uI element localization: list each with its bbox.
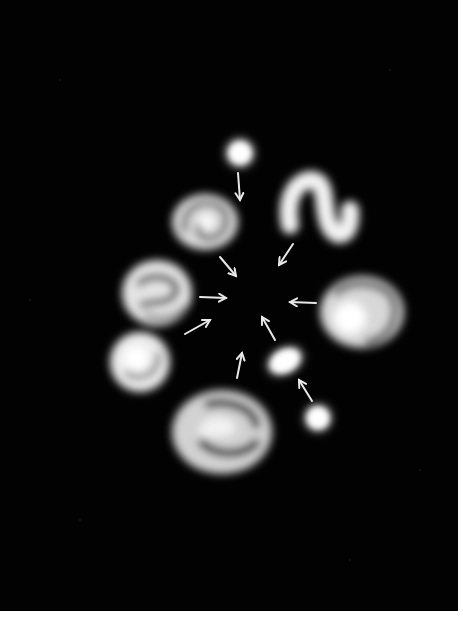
galaxy-spiral-upper-left xyxy=(172,194,238,250)
galaxy-spiral-right xyxy=(320,276,404,348)
arrow-lower-left xyxy=(185,320,210,334)
arrow-upper-right xyxy=(279,244,293,265)
arrow-center-right xyxy=(262,317,275,340)
galaxy-s-shaped-upper-right xyxy=(289,180,350,234)
arrow-upper-left xyxy=(220,257,236,276)
galaxy-scene xyxy=(0,0,458,611)
arrow-left xyxy=(200,297,226,298)
arrow-bottom xyxy=(237,353,242,378)
galaxy-spiral-lower-left xyxy=(110,332,170,392)
arrow-lower-right xyxy=(299,380,312,401)
galaxy-spiral-bottom xyxy=(172,390,272,474)
galaxy-small-elliptical-top xyxy=(223,136,257,170)
arrow-top xyxy=(238,173,240,200)
galaxy-small-elliptical-lower-right xyxy=(302,402,334,434)
arrow-right xyxy=(290,302,316,303)
galaxy-merger-illustration xyxy=(0,0,458,611)
galaxy-elliptical-center-right xyxy=(259,337,312,384)
galaxy-spiral-left xyxy=(122,260,192,326)
